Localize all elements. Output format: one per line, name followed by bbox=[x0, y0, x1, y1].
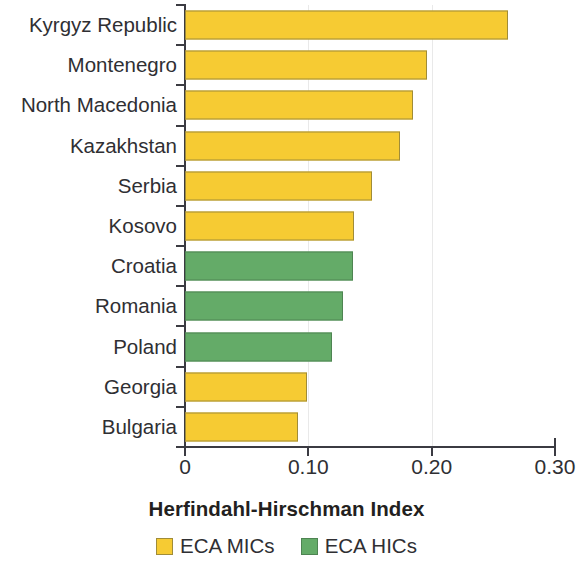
legend-item-eca-hics[interactable]: ECA HICs bbox=[301, 536, 417, 557]
bar-montenegro[interactable] bbox=[185, 51, 427, 80]
legend-label-eca-hics: ECA HICs bbox=[325, 536, 417, 557]
y-tick-mark bbox=[176, 366, 185, 368]
legend-swatch-icon-eca-hics bbox=[301, 538, 318, 555]
bar-band bbox=[185, 166, 555, 206]
bar-band bbox=[185, 5, 555, 45]
y-tick-mark bbox=[176, 44, 185, 46]
bar-georgia[interactable] bbox=[185, 372, 307, 401]
bar-romania[interactable] bbox=[185, 292, 343, 321]
category-label-kosovo: Kosovo bbox=[0, 216, 177, 237]
legend-label-eca-mics: ECA MICs bbox=[180, 536, 275, 557]
bar-band bbox=[185, 246, 555, 286]
y-tick-mark bbox=[176, 205, 185, 207]
bar-poland[interactable] bbox=[185, 332, 332, 361]
x-axis-title: Herfindahl-Hirschman Index bbox=[0, 497, 573, 521]
chart-legend: ECA MICs ECA HICs bbox=[0, 536, 573, 557]
category-label-serbia: Serbia bbox=[0, 176, 177, 197]
bar-kosovo[interactable] bbox=[185, 211, 354, 240]
x-tick-label: 0.20 bbox=[372, 456, 492, 477]
category-label-montenegro: Montenegro bbox=[0, 55, 177, 76]
category-label-poland: Poland bbox=[0, 337, 177, 358]
bar-band bbox=[185, 367, 555, 407]
bar-north-macedonia[interactable] bbox=[185, 91, 413, 120]
bar-band bbox=[185, 126, 555, 166]
bar-band bbox=[185, 326, 555, 366]
legend-swatch-icon-eca-mics bbox=[156, 538, 173, 555]
x-tick-label: 0 bbox=[125, 456, 245, 477]
x-tick-label: 0.30 bbox=[495, 456, 580, 477]
bar-band bbox=[185, 85, 555, 125]
bar-bulgaria[interactable] bbox=[185, 412, 298, 441]
category-label-bulgaria: Bulgaria bbox=[0, 417, 177, 438]
plot-area bbox=[185, 5, 555, 447]
bar-serbia[interactable] bbox=[185, 171, 372, 200]
category-label-kyrgyz-republic: Kyrgyz Republic bbox=[0, 15, 177, 36]
y-tick-mark bbox=[176, 125, 185, 127]
category-label-north-macedonia: North Macedonia bbox=[0, 95, 177, 116]
bar-band bbox=[185, 45, 555, 85]
y-tick-mark bbox=[176, 84, 185, 86]
y-tick-mark bbox=[176, 325, 185, 327]
bar-band bbox=[185, 286, 555, 326]
bar-band bbox=[185, 407, 555, 447]
category-label-romania: Romania bbox=[0, 296, 177, 317]
bar-kazakhstan[interactable] bbox=[185, 131, 400, 160]
y-tick-mark bbox=[176, 4, 185, 6]
y-tick-mark bbox=[176, 245, 185, 247]
bar-band bbox=[185, 206, 555, 246]
y-tick-mark bbox=[176, 406, 185, 408]
category-label-kazakhstan: Kazakhstan bbox=[0, 136, 177, 157]
legend-item-eca-mics[interactable]: ECA MICs bbox=[156, 536, 275, 557]
category-label-croatia: Croatia bbox=[0, 256, 177, 277]
category-label-georgia: Georgia bbox=[0, 377, 177, 398]
y-tick-mark bbox=[176, 285, 185, 287]
bar-kyrgyz-republic[interactable] bbox=[185, 11, 508, 40]
x-tick-label: 0.10 bbox=[248, 456, 368, 477]
y-tick-mark bbox=[176, 165, 185, 167]
bar-croatia[interactable] bbox=[185, 252, 353, 281]
